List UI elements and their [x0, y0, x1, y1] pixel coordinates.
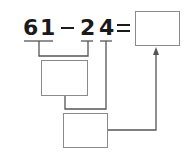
subtraction-decomposition-diagram: 6 1 2 4: [0, 0, 187, 165]
arrow-line-to-answer: [107, 52, 156, 130]
digit-tens-minuend: 6: [23, 17, 38, 39]
step1-box[interactable]: [41, 60, 88, 96]
step2-box[interactable]: [63, 113, 108, 148]
digit-ones-minuend: 1: [40, 17, 55, 39]
arrowhead-up-icon: [153, 47, 159, 55]
bracket-61-minus-2: [39, 41, 88, 56]
answer-box[interactable]: [135, 11, 180, 46]
digit-tens-subtrahend: 2: [80, 17, 95, 39]
digit-ones-subtrahend: 4: [99, 17, 114, 39]
